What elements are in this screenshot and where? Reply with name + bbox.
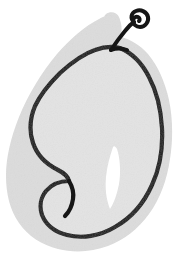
illustration-canvas: Pear — [0, 0, 180, 266]
pear-illustration — [0, 0, 180, 266]
